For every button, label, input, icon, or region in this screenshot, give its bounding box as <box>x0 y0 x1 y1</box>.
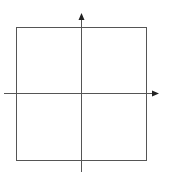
y-axis-arrow-icon <box>79 13 85 20</box>
x-axis-arrow-icon <box>152 91 159 97</box>
axes-diagram <box>0 0 173 179</box>
